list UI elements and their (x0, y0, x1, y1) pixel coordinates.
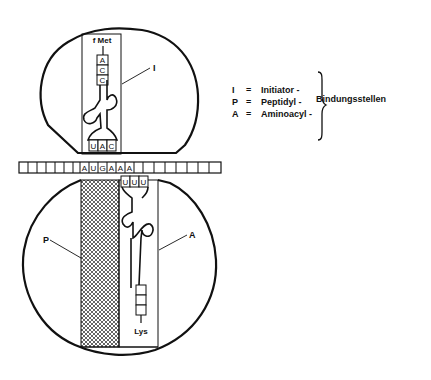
p-site-label: P (43, 235, 49, 245)
legend-text: Initiator - (261, 84, 300, 96)
large-subunit-outline (23, 180, 216, 355)
anticodon-base-2: A (100, 142, 106, 151)
mrna-base-5: A (118, 164, 124, 173)
a-site-label: A (189, 230, 196, 240)
large-subunit: U U U Lys P A (23, 176, 216, 355)
legend-eq: = (246, 108, 261, 120)
legend: I = Initiator - P = Peptidyl - A = Amino… (232, 84, 312, 120)
small-subunit-outline (41, 28, 198, 153)
acceptor-base-3: C (100, 76, 106, 85)
mrna-base-6: A (127, 164, 133, 173)
lys-anticodon-3: U (141, 178, 147, 187)
mrna-base-1: A (82, 164, 88, 173)
small-subunit: A C C f Met U A C I (41, 28, 198, 154)
lys-label: Lys (134, 327, 148, 336)
legend-row-initiator: I = Initiator - (232, 84, 312, 96)
brace-icon (318, 72, 326, 140)
legend-key: I (232, 84, 246, 96)
legend-key: A (232, 108, 246, 120)
legend-eq: = (246, 84, 261, 96)
lys-anticodon-1: U (123, 178, 129, 187)
initiator-trna (84, 80, 117, 140)
p-site-column (81, 180, 119, 347)
legend-key: P (232, 96, 246, 108)
anticodon-base-1: U (91, 142, 97, 151)
mrna-base-2: U (91, 164, 97, 173)
legend-text: Aminoacyl - (261, 108, 312, 120)
fmet-label: f Met (93, 36, 112, 45)
a-site-column (119, 180, 158, 347)
lysyl-trna (122, 187, 153, 288)
binding-sites-label: Bindungsstellen (316, 94, 386, 104)
mrna-base-4: A (109, 164, 115, 173)
mrna-strip: A U G A A A (19, 162, 221, 173)
legend-row-aminoacyl: A = Aminoacyl - (232, 108, 312, 120)
acceptor-base-2: C (100, 66, 106, 75)
mrna-base-3: G (99, 164, 105, 173)
acceptor-base-1: A (100, 56, 106, 65)
ribosome-diagram: A C C f Met U A C I A U G (0, 0, 431, 380)
lys-anticodon-2: U (132, 178, 138, 187)
i-site-label: I (153, 63, 156, 73)
legend-eq: = (246, 96, 261, 108)
anticodon-base-3: C (109, 142, 115, 151)
legend-text: Peptidyl - (261, 96, 302, 108)
legend-row-peptidyl: P = Peptidyl - (232, 96, 312, 108)
